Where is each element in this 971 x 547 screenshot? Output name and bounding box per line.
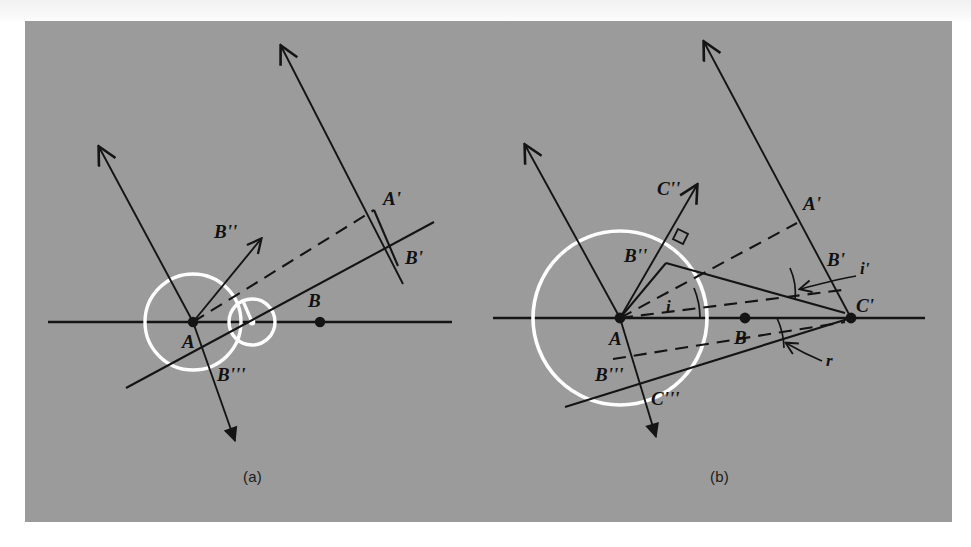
label-angle-i-b: i	[666, 297, 671, 316]
point-A-marker-b	[615, 313, 626, 324]
label-B-double-prime-a: B''	[213, 221, 237, 242]
caption-panel-a: (a)	[243, 468, 262, 485]
label-A-a: A	[181, 331, 195, 352]
caption-panel-b: (b)	[710, 468, 729, 485]
label-C-double-prime-b: C''	[657, 178, 680, 199]
huygens-refraction-figure: A B A' B' B'' B'''	[0, 0, 971, 547]
point-B-marker-b	[740, 313, 751, 324]
point-B-marker-a	[315, 317, 325, 327]
label-B-triple-prime-b: B'''	[594, 364, 624, 385]
label-B-a: B	[307, 290, 321, 311]
label-B-prime-b: B'	[826, 249, 845, 270]
label-angle-r-b: r	[826, 351, 833, 370]
label-angle-i-prime-b: i'	[860, 259, 870, 278]
label-B-triple-prime-a: B'''	[216, 364, 246, 385]
label-A-b: A	[608, 328, 622, 349]
point-C-prime-marker-b	[846, 313, 857, 324]
label-A-prime-b: A'	[802, 193, 821, 214]
panel-texture-overlay	[25, 21, 952, 522]
label-C-triple-prime-b: C'''	[651, 388, 680, 409]
figure-root: A B A' B' B'' B'''	[0, 0, 971, 547]
point-A-marker-a	[188, 317, 198, 327]
label-C-prime-b: C'	[856, 295, 874, 316]
label-B-b: B	[733, 327, 747, 348]
label-A-prime-a: A'	[382, 188, 401, 209]
label-B-double-prime-b: B''	[623, 245, 647, 266]
label-B-prime-a: B'	[404, 247, 423, 268]
